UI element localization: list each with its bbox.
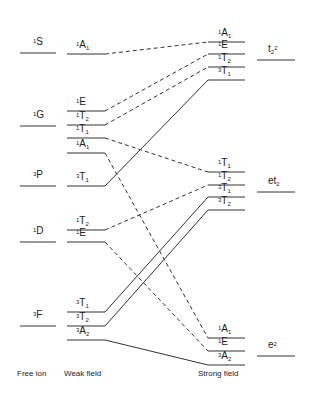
weak-field-state-label: 3T2: [76, 312, 89, 322]
correlation-lines: [0, 0, 309, 401]
label-weak-field: Weak field: [64, 369, 101, 378]
weak-field-state-label: 3T1: [76, 298, 89, 308]
strong-field-state-label: 3T1: [218, 66, 231, 76]
correlation-line: [105, 138, 208, 172]
label-free-ion: Free ion: [17, 369, 46, 378]
strong-field-state-label: 3A2: [218, 351, 231, 361]
strong-field-state-label: 1T1: [218, 158, 231, 168]
weak-field-state-label: 1T2: [76, 216, 89, 226]
correlation-line: [105, 185, 208, 230]
correlation-line: [105, 242, 208, 351]
strong-field-state-label: 1T2: [218, 53, 231, 63]
strong-field-state-label: 3T1: [218, 183, 231, 193]
free-ion-term-label: 1D: [33, 226, 44, 236]
weak-field-state-label: 1A1: [76, 40, 89, 50]
configuration-label: et2: [268, 176, 280, 186]
strong-field-state-label: 1E: [218, 40, 228, 50]
weak-field-state-label: 1E: [76, 228, 86, 238]
free-ion-term-label: 1S: [33, 37, 43, 47]
correlation-line: [105, 54, 208, 111]
strong-field-state-label: 3T2: [218, 196, 231, 206]
weak-field-state-label: 1A1: [76, 139, 89, 149]
strong-field-state-label: 1T2: [218, 171, 231, 181]
weak-field-state-label: 1E: [76, 97, 86, 107]
correlation-line: [105, 210, 208, 326]
weak-field-state-label: 1T1: [76, 124, 89, 134]
weak-field-state-label: 3T1: [76, 172, 89, 182]
strong-field-state-label: 1A1: [218, 28, 231, 38]
label-strong-field: Strong field: [198, 369, 238, 378]
free-ion-term-label: 3F: [33, 310, 42, 320]
correlation-line: [105, 197, 208, 312]
weak-field-state-label: 3A2: [76, 326, 89, 336]
strong-field-state-label: 1A1: [218, 324, 231, 334]
configuration-label: e2: [268, 340, 277, 350]
strong-field-state-label: 1E: [218, 337, 228, 347]
correlation-line: [105, 340, 208, 365]
free-ion-term-label: 1G: [33, 110, 44, 120]
free-ion-term-label: 3P: [33, 170, 43, 180]
correlation-line: [105, 153, 208, 338]
configuration-label: t22: [268, 44, 277, 54]
correlation-line: [105, 42, 208, 54]
weak-field-state-label: 1T2: [76, 111, 89, 121]
